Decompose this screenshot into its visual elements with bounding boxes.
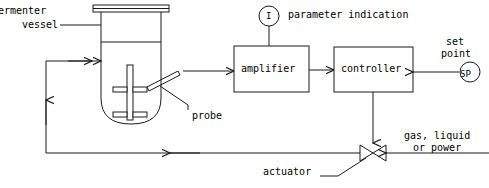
impeller-blade-upper-left: [113, 87, 127, 92]
impeller-blade-upper-right: [133, 87, 147, 92]
set-point-label-line2: point: [441, 48, 471, 60]
feed-return-line: [46, 61, 360, 153]
set-point-label-line1: set: [446, 36, 464, 48]
agitator-shaft: [127, 65, 133, 120]
process-flow-diagram: ermenter vessel I parameter indication s…: [0, 0, 489, 188]
probe-graphic: [147, 71, 188, 110]
diagram-canvas: [0, 0, 489, 188]
valve-body-right: [373, 145, 386, 161]
fermenter-vessel-label-line2: vessel: [22, 19, 58, 31]
valve-body-left: [360, 145, 373, 161]
impeller-blade-lower-right: [133, 112, 147, 117]
impeller-blade-lower-left: [113, 112, 127, 117]
supply-label-line1: gas, liquid: [404, 130, 470, 142]
parameter-indicator-letter: I: [266, 10, 271, 22]
amplifier-label: amplifier: [241, 63, 295, 75]
actuator-valve-graphic: [320, 145, 386, 176]
probe-leader-line: [160, 86, 188, 110]
parameter-indication-label: parameter indication: [288, 9, 408, 21]
supply-label-line2: or power: [413, 142, 461, 154]
set-point-letters: SP: [460, 68, 471, 80]
probe-label: probe: [192, 110, 222, 122]
actuator-label: actuator: [263, 166, 311, 178]
actuator-leader-line: [320, 158, 366, 176]
probe-head-cap: [178, 71, 180, 75]
fermenter-vessel-label-line1: ermenter: [0, 5, 46, 17]
agitator-assembly: [113, 65, 147, 120]
probe-body-line-a: [147, 71, 178, 87]
controller-label: controller: [341, 63, 401, 75]
